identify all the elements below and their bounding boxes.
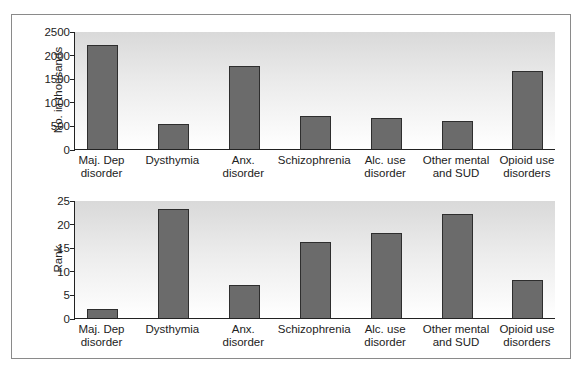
x-category-label: Anx.disorder	[203, 323, 283, 349]
bottom-bar-0	[87, 309, 118, 318]
x-label-line2: and SUD	[416, 336, 496, 349]
bottom-bar-1	[158, 209, 189, 318]
x-label-line1: Other mental	[416, 323, 496, 336]
x-category-label: Schizophrenia	[274, 323, 354, 336]
y-tick-mark	[70, 201, 75, 202]
x-category-label: Other mentaland SUD	[416, 323, 496, 349]
bottom-chart: Rank 0510152025 Maj. DepdisorderDysthymi…	[0, 0, 579, 180]
x-category-label: Alc. usedisorder	[345, 323, 425, 349]
x-label-line2: disorder	[62, 336, 142, 349]
bottom-bar-2	[229, 285, 260, 318]
x-label-line1: Anx.	[203, 323, 283, 336]
x-category-label: Maj. Depdisorder	[62, 323, 142, 349]
bottom-bar-5	[442, 214, 473, 318]
x-label-line1: Opioid use	[487, 323, 567, 336]
x-label-line1: Maj. Dep	[62, 323, 142, 336]
x-category-label: Dysthymia	[132, 323, 212, 336]
y-tick-mark	[70, 248, 75, 249]
y-tick-label: 15	[57, 242, 70, 254]
x-label-line2: disorders	[487, 336, 567, 349]
y-tick-label: 10	[57, 266, 70, 278]
bottom-plot-area	[74, 201, 555, 319]
bottom-bar-3	[300, 242, 331, 318]
x-label-line2: disorder	[345, 336, 425, 349]
bottom-bar-6	[512, 280, 543, 318]
y-tick-mark	[70, 319, 75, 320]
x-category-label: Opioid usedisorders	[487, 323, 567, 349]
y-tick-label: 25	[57, 195, 70, 207]
y-tick-mark	[70, 295, 75, 296]
x-label-line1: Schizophrenia	[274, 323, 354, 336]
y-tick-mark	[70, 271, 75, 272]
x-label-line1: Dysthymia	[132, 323, 212, 336]
y-tick-mark	[70, 224, 75, 225]
y-tick-label: 20	[57, 219, 70, 231]
x-label-line1: Alc. use	[345, 323, 425, 336]
x-label-line2: disorder	[203, 336, 283, 349]
bottom-bar-4	[371, 233, 402, 318]
